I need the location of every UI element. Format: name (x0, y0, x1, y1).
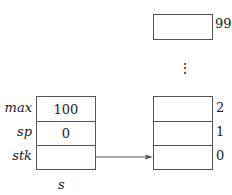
arrowhead-icon (145, 155, 153, 160)
pointer-arrow (0, 0, 232, 195)
